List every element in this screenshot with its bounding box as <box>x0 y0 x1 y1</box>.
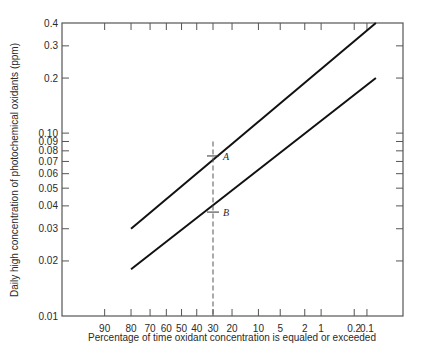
y-tick-label: 0.06 <box>39 168 59 179</box>
x-axis-title: Percentage of time oxidant concentration… <box>88 332 376 343</box>
probability-chart: 9080706050403020105210.20.10.010.020.030… <box>0 0 423 363</box>
y-tick-label: 0.04 <box>39 200 59 211</box>
y-tick-label: 0.07 <box>39 156 59 167</box>
lower-line <box>131 78 376 269</box>
y-tick-label: 0.01 <box>39 311 59 322</box>
upper-line <box>131 23 376 229</box>
y-tick-label: 0.05 <box>39 183 59 194</box>
y-tick-label: 0.03 <box>39 223 59 234</box>
y-tick-label: 0.02 <box>39 255 59 266</box>
y-tick-label: 0.3 <box>44 40 58 51</box>
annotation-label-b: B <box>223 207 229 218</box>
annotation-label-a: A <box>222 151 230 162</box>
y-axis-title: Daily high concentration of photochemica… <box>9 43 20 297</box>
y-tick-label: 0.10 <box>39 128 59 139</box>
y-tick-label: 0.4 <box>44 18 58 29</box>
y-tick-label: 0.2 <box>44 73 58 84</box>
plot-frame <box>62 23 403 316</box>
